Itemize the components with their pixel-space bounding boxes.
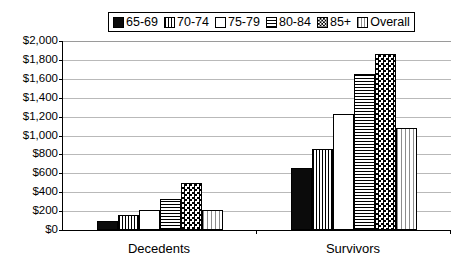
y-axis-tick	[59, 211, 63, 212]
bar-decedents-Overall	[202, 210, 223, 230]
y-axis-label: $200	[2, 205, 58, 217]
y-axis: $2,000$1,800$1,600$1,400$1,200$1,000$800…	[0, 41, 58, 230]
y-axis-label: $1,200	[2, 111, 58, 123]
y-axis-tick	[59, 154, 63, 155]
legend-item-overall: Overall	[357, 15, 410, 29]
y-axis-tick	[59, 79, 63, 80]
y-axis-tick	[59, 60, 63, 61]
chart-legend: 65-69 70-74 75-79 80-84 85+ Overall	[108, 12, 415, 32]
bar-survivors-Overall	[396, 128, 417, 230]
bar-decedents-65-69	[97, 221, 118, 230]
legend-swatch-85plus-icon	[317, 17, 328, 28]
y-axis-label: $1,000	[2, 130, 58, 142]
legend-label-70-74: 70-74	[177, 15, 209, 29]
y-axis-tick	[59, 192, 63, 193]
legend-label-65-69: 65-69	[126, 15, 158, 29]
legend-label-85plus: 85+	[330, 15, 351, 29]
bar-survivors-75-79	[333, 114, 354, 230]
gridline	[63, 41, 451, 42]
legend-item-65-69: 65-69	[113, 15, 158, 29]
bar-decedents-70-74	[118, 215, 139, 230]
y-axis-label: $1,800	[2, 54, 58, 66]
legend-item-70-74: 70-74	[164, 15, 209, 29]
bar-survivors-70-74	[312, 149, 333, 230]
x-axis-label-survivors: Survivors	[256, 242, 450, 256]
plot-area	[62, 41, 451, 231]
bar-survivors-65-69	[291, 168, 312, 230]
x-axis-tick	[450, 230, 451, 234]
legend-label-overall: Overall	[370, 15, 410, 29]
legend-swatch-75-79-icon	[215, 17, 226, 28]
legend-swatch-overall-icon	[357, 17, 368, 28]
bar-decedents-75-79	[139, 210, 160, 230]
legend-item-75-79: 75-79	[215, 15, 260, 29]
legend-label-80-84: 80-84	[279, 15, 311, 29]
y-axis-label: $800	[2, 148, 58, 160]
y-axis-tick	[59, 136, 63, 137]
x-axis-label-decedents: Decedents	[62, 242, 256, 256]
y-axis-label: $0	[2, 224, 58, 236]
legend-swatch-65-69-icon	[113, 17, 124, 28]
legend-swatch-70-74-icon	[164, 17, 175, 28]
bar-survivors-85plus	[375, 54, 396, 230]
y-axis-tick	[59, 98, 63, 99]
y-axis-label: $400	[2, 186, 58, 198]
y-axis-tick	[59, 230, 63, 231]
bar-survivors-80-84	[354, 74, 375, 230]
y-axis-tick	[59, 41, 63, 42]
y-axis-tick	[59, 173, 63, 174]
y-axis-label: $1,600	[2, 73, 58, 85]
y-axis-label: $1,400	[2, 92, 58, 104]
legend-item-85plus: 85+	[317, 15, 351, 29]
y-axis-label: $2,000	[2, 35, 58, 47]
bar-chart: 65-69 70-74 75-79 80-84 85+ Overall $2,0…	[0, 0, 463, 268]
bar-decedents-80-84	[160, 199, 181, 230]
legend-swatch-80-84-icon	[266, 17, 277, 28]
x-axis-tick	[256, 230, 257, 234]
legend-item-80-84: 80-84	[266, 15, 311, 29]
bar-decedents-85plus	[181, 183, 202, 230]
legend-label-75-79: 75-79	[228, 15, 260, 29]
y-axis-label: $600	[2, 167, 58, 179]
y-axis-tick	[59, 117, 63, 118]
